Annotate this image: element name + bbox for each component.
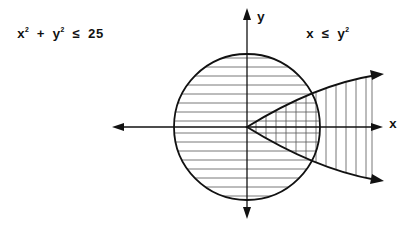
circle-label-rhs: ≤ 25	[64, 27, 103, 42]
y-axis-label: y	[257, 10, 265, 25]
y-axis-down-arrow-icon	[243, 207, 251, 219]
x-axis-right-arrow-icon	[371, 123, 383, 131]
exponent: 2	[345, 26, 349, 34]
parabola-bottom-arrow-icon	[370, 174, 384, 184]
parabola-top-arrow-icon	[370, 70, 384, 80]
circle-label-y: + y	[29, 27, 60, 42]
parabola-label-text: x ≤ y	[306, 27, 345, 42]
x-axis-left-arrow-icon	[112, 123, 124, 131]
circle-label-x: x	[17, 27, 25, 42]
y-axis-up-arrow-icon	[243, 8, 251, 20]
circle-inequality-label: x2 + y2 ≤ 25	[17, 26, 103, 42]
parabola-inequality-label: x ≤ y2	[306, 26, 349, 42]
parabola-hatching	[256, 60, 372, 200]
x-axis-label: x	[389, 117, 397, 132]
